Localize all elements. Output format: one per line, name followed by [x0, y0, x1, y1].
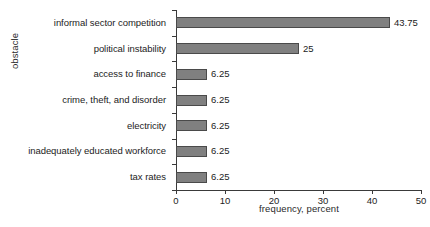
bar-value-label: 43.75	[394, 17, 418, 29]
y-axis-tick	[172, 87, 176, 88]
x-axis-tick	[225, 190, 226, 194]
bar-value-label: 6.25	[211, 94, 230, 106]
bar-value-label: 6.25	[211, 120, 230, 132]
bar	[176, 172, 207, 183]
x-axis-tick	[274, 190, 275, 194]
x-axis-tick	[176, 190, 177, 194]
bar	[176, 146, 207, 157]
y-axis-tick	[172, 10, 176, 11]
category-label: access to finance	[93, 68, 166, 80]
bar	[176, 17, 390, 28]
bar-value-label: 25	[303, 43, 314, 55]
category-label: political instability	[94, 43, 166, 55]
category-label: crime, theft, and disorder	[62, 94, 166, 106]
bar-value-label: 6.25	[211, 171, 230, 183]
category-axis-labels: informal sector competitionpolitical ins…	[16, 10, 170, 190]
x-axis-line	[176, 190, 421, 191]
y-axis-tick	[172, 164, 176, 165]
y-axis-tick	[172, 36, 176, 37]
x-axis-title: frequency, percent	[176, 203, 422, 214]
bar-value-label: 6.25	[211, 68, 230, 80]
bar-chart: obstacle informal sector competitionpoli…	[0, 0, 430, 227]
y-axis-tick	[172, 61, 176, 62]
category-label: tax rates	[130, 171, 166, 183]
bar	[176, 120, 207, 131]
category-label: informal sector competition	[54, 17, 166, 29]
bar	[176, 43, 299, 54]
x-axis-tick	[372, 190, 373, 194]
x-axis-tick	[421, 190, 422, 194]
y-axis-tick	[172, 113, 176, 114]
bar-value-label: 6.25	[211, 145, 230, 157]
plot-area: 43.75256.256.256.256.256.2501020304050	[176, 10, 422, 190]
x-axis-tick	[323, 190, 324, 194]
bar	[176, 95, 207, 106]
y-axis-tick	[172, 139, 176, 140]
category-label: inadequately educated workforce	[28, 145, 166, 157]
category-label: electricity	[127, 120, 166, 132]
bar	[176, 69, 207, 80]
